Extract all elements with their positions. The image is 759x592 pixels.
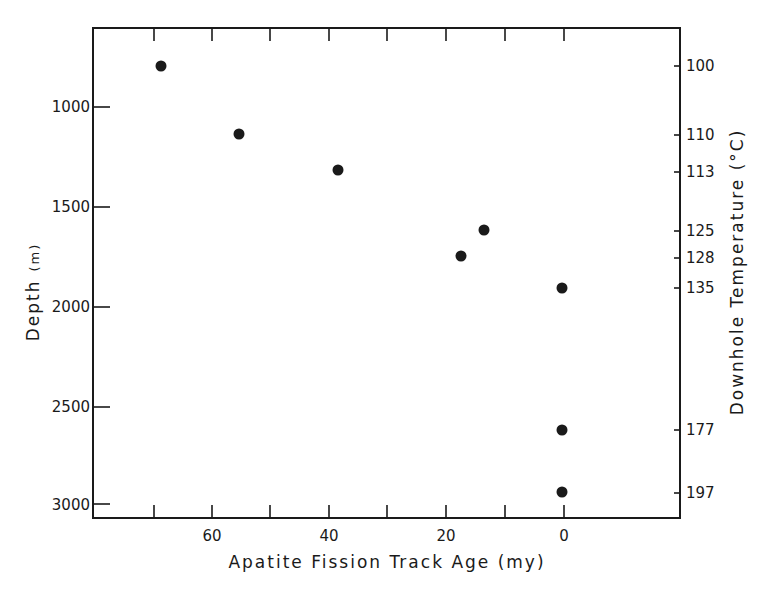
y-axis-ticks (93, 107, 110, 504)
top-ticks (154, 28, 564, 41)
depth-age-chart: 1000 1500 2000 2500 3000 60 40 20 0 100 … (0, 0, 759, 592)
data-point (156, 61, 167, 72)
y2-tick-label: 128 (686, 249, 715, 267)
y-tick-label: 1000 (52, 98, 90, 116)
y-axis-title: Depth(m) (23, 243, 43, 342)
y-axis-title-main: Depth (23, 280, 43, 342)
y2-tick-label: 197 (686, 484, 715, 502)
x-axis-title: Apatite Fission Track Age (my) (228, 552, 545, 572)
data-point (234, 129, 245, 140)
y2-tick-label: 125 (686, 222, 715, 240)
data-point (456, 251, 467, 262)
x-tick-label: 60 (202, 527, 221, 545)
plot-frame (93, 28, 680, 518)
x-tick-label: 40 (319, 527, 338, 545)
y-tick-label: 1500 (52, 198, 90, 216)
y2-tick-label: 177 (686, 421, 715, 439)
y2-axis-title: Downhole Temperature (°C) (727, 129, 747, 416)
data-point (557, 487, 568, 498)
data-points (156, 61, 568, 498)
svg-text:Depth(m): Depth(m) (23, 243, 43, 342)
data-point (557, 283, 568, 294)
y2-tick-label: 135 (686, 279, 715, 297)
y2-axis-title-text: Downhole Temperature (°C) (727, 129, 747, 416)
x-axis-ticks (154, 505, 564, 518)
y-axis-title-unit: (m) (27, 243, 42, 272)
y-tick-label: 2000 (52, 298, 90, 316)
data-point (479, 225, 490, 236)
y2-tick-label: 113 (686, 163, 715, 181)
data-point (333, 165, 344, 176)
x-tick-label: 0 (559, 527, 569, 545)
data-point (557, 425, 568, 436)
y-tick-label: 2500 (52, 398, 90, 416)
x-tick-label: 20 (436, 527, 455, 545)
y2-tick-label: 100 (686, 57, 715, 75)
y-tick-label: 3000 (52, 496, 90, 514)
y2-tick-label: 110 (686, 126, 715, 144)
